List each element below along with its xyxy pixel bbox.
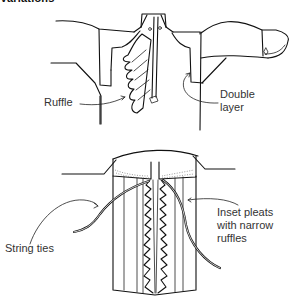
label-inset-pleats-1: Inset pleats — [217, 206, 273, 219]
label-double-layer-1: Double — [220, 88, 255, 101]
shirt-front-figure — [51, 14, 288, 130]
label-double-layer-2: layer — [220, 101, 244, 114]
garment-illustration — [0, 0, 290, 303]
label-ruffle: Ruffle — [44, 96, 73, 109]
label-inset-pleats-2: with narrow — [217, 219, 273, 232]
label-inset-pleats-3: ruffles — [217, 232, 247, 245]
label-string-ties: String ties — [5, 242, 54, 255]
inset-pleats-figure — [30, 150, 238, 295]
